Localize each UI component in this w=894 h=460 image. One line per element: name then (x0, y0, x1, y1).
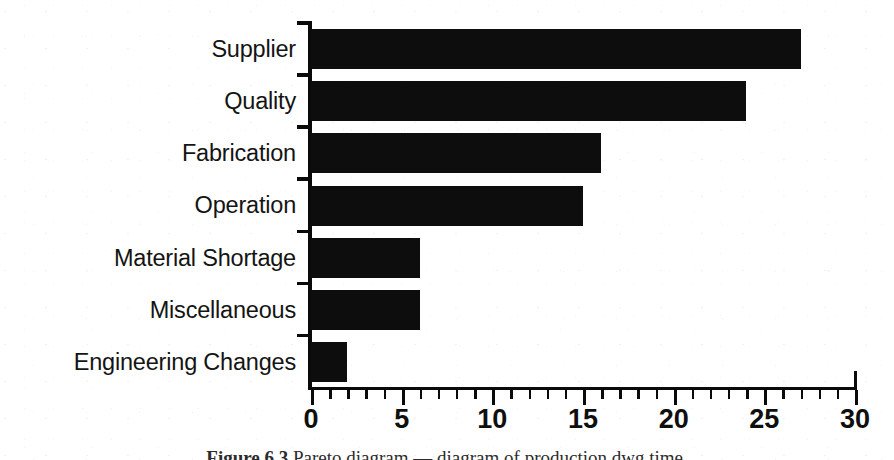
category-label: Engineering Changes (74, 336, 296, 388)
x-axis-minor-tick (746, 390, 748, 399)
x-axis-minor-tick (384, 390, 386, 399)
category-label: Miscellaneous (150, 284, 296, 336)
figure-caption-text: Pareto diagram — diagram of production d… (293, 447, 688, 460)
bar (311, 81, 746, 121)
x-axis-major-tick (492, 390, 495, 405)
y-axis-tick (297, 21, 309, 25)
category-label: Material Shortage (114, 232, 296, 284)
x-axis-minor-tick (438, 390, 440, 399)
x-axis-tick-label: 30 (840, 404, 870, 435)
y-axis-tick (297, 125, 309, 129)
x-axis-tick-label: 5 (394, 404, 409, 435)
x-axis-minor-tick (601, 390, 603, 399)
x-axis-minor-tick (837, 390, 839, 399)
x-axis-minor-tick (547, 390, 549, 399)
x-axis-minor-tick (692, 390, 694, 399)
x-axis-minor-tick (619, 390, 621, 399)
x-axis-minor-tick (474, 390, 476, 399)
y-axis-tick (297, 334, 309, 338)
x-axis-minor-tick (365, 390, 367, 399)
x-axis-minor-tick (782, 390, 784, 399)
category-label: Quality (224, 75, 296, 127)
x-axis-minor-tick (529, 390, 531, 399)
bar-series (311, 23, 855, 388)
x-axis-major-tick (311, 390, 314, 405)
bar (311, 238, 420, 278)
y-axis-tick (297, 282, 309, 286)
x-axis-minor-tick (819, 390, 821, 399)
category-label: Supplier (211, 23, 296, 75)
x-axis-major-tick (764, 390, 767, 405)
y-axis-tick (297, 177, 309, 181)
x-axis-minor-tick (329, 390, 331, 399)
x-axis-major-tick (402, 390, 405, 405)
y-axis-tick (297, 230, 309, 234)
figure-caption: Figure 6.3 Pareto diagram — diagram of p… (0, 447, 894, 460)
x-axis-major-tick (855, 390, 858, 405)
bar-chart: SupplierQualityFabricationOperationMater… (0, 0, 894, 400)
x-axis-minor-tick (510, 390, 512, 399)
category-label: Fabrication (182, 127, 296, 179)
x-axis-minor-tick (710, 390, 712, 399)
figure-caption-label: Figure 6.3 (206, 447, 288, 460)
x-axis-tick-label: 25 (749, 404, 779, 435)
x-axis-tick-label: 0 (303, 404, 318, 435)
bar (311, 133, 601, 173)
bar (311, 290, 420, 330)
category-axis-labels: SupplierQualityFabricationOperationMater… (0, 23, 296, 388)
figure-container: SupplierQualityFabricationOperationMater… (0, 0, 894, 460)
x-axis-minor-tick (728, 390, 730, 399)
x-axis-minor-tick (456, 390, 458, 399)
y-axis-tick (297, 73, 309, 77)
x-axis-end-cap (854, 371, 858, 390)
x-axis-minor-tick (420, 390, 422, 399)
x-axis-minor-tick (565, 390, 567, 399)
bar (311, 342, 347, 382)
figure-caption-clip: Figure 6.3 Pareto diagram — diagram of p… (0, 447, 894, 460)
bar (311, 29, 801, 69)
x-axis-major-tick (674, 390, 677, 405)
x-axis-major-tick (583, 390, 586, 405)
x-axis-tick-label: 20 (659, 404, 689, 435)
bar (311, 186, 583, 226)
category-label: Operation (195, 179, 296, 231)
x-axis-tick-label: 15 (568, 404, 598, 435)
x-axis-minor-tick (801, 390, 803, 399)
x-axis-minor-tick (637, 390, 639, 399)
x-axis-minor-tick (656, 390, 658, 399)
x-axis-minor-tick (347, 390, 349, 399)
x-axis-tick-label: 10 (477, 404, 507, 435)
